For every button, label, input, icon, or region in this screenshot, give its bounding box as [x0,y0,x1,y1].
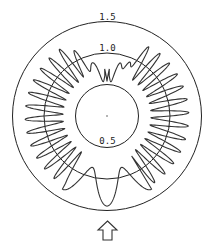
ring-label: 1.5 [99,12,115,22]
center-dot [106,115,108,117]
ring-label: 1.0 [99,43,115,53]
polar-plot: 0.51.01.5 [0,0,212,245]
arrow-up-icon [98,221,117,240]
ring-label: 0.5 [99,136,115,146]
pattern-curve [25,47,189,206]
